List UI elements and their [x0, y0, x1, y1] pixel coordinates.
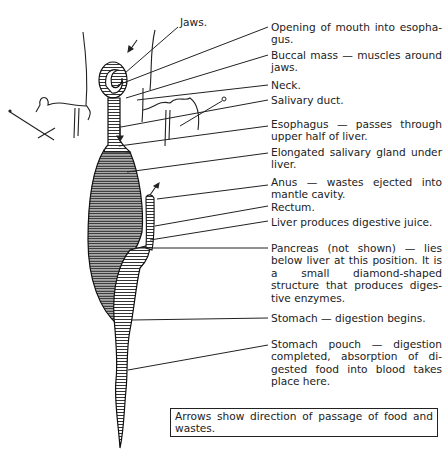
arrows-note-box: Arrows show direction of passage of food…: [170, 408, 438, 437]
label-stomach: Stomach — digestion begins.: [271, 312, 442, 324]
label-rectum: Rectum.: [271, 201, 442, 213]
label-stomach-pouch: Stomach pouch — digestion completed, abs…: [271, 338, 442, 388]
label-opening-of-mouth: Opening of mouth into esopha-gus.: [271, 21, 442, 46]
rectum-shape: [146, 195, 154, 250]
label-pancreas: Pancreas (not shown) — lies below liver …: [271, 242, 442, 304]
label-esophagus: Esophagus — passes through upper half of…: [271, 118, 442, 143]
salivary-duct-pointer-left: [10, 112, 54, 140]
label-buccal-mass: Buccal mass — muscles around jaws.: [271, 49, 442, 74]
label-jaws: Jaws.: [180, 16, 207, 28]
label-neck: Neck.: [271, 79, 442, 91]
label-salivary-gland: Elongated salivary gland under liver.: [271, 146, 442, 171]
esophagus-shape: [104, 98, 130, 152]
label-anus: Anus — wastes ejected into mantle cavity…: [271, 176, 442, 201]
label-salivary-duct: Salivary duct.: [271, 94, 442, 106]
label-liver: Liver produces digestive juice.: [271, 216, 442, 228]
stomach-shape: [114, 245, 150, 448]
